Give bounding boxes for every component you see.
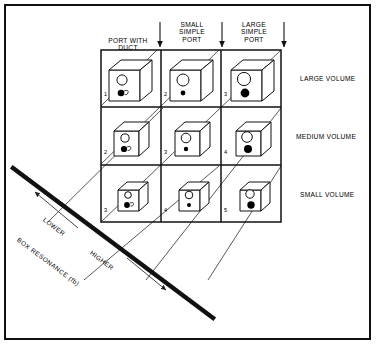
cell-number-r2c3: 4 [224, 149, 227, 155]
diagram-stage: PORT WITH DUCT SMALL SIMPLE PORT LARGE S… [0, 0, 377, 346]
column-header-large-simple-port: LARGE SIMPLE PORT [229, 13, 279, 43]
cell-number-r2c2: 3 [164, 149, 167, 155]
cube-r1c3 [231, 60, 274, 101]
row-label-medium-volume: MEDIUM VOLUME [296, 133, 356, 140]
cube-r1c1 [109, 60, 152, 101]
cube-r2c2 [175, 122, 210, 156]
column-header-label-3: LARGE SIMPLE PORT [241, 21, 267, 43]
cube-r1c2 [170, 60, 213, 101]
row-label-large-volume: LARGE VOLUME [300, 75, 355, 82]
cell-number-text: 2 [104, 149, 107, 155]
cell-number-r1c1: 1 [104, 91, 107, 97]
cell-number-text: 3 [224, 91, 227, 97]
row-label-text-2: MEDIUM VOLUME [296, 133, 356, 140]
cell-number-r1c2: 2 [164, 91, 167, 97]
cube-r3c3 [240, 182, 270, 211]
cube-r2c3 [236, 122, 271, 156]
cell-number-r3c3: 5 [224, 207, 227, 213]
row-label-text-1: LARGE VOLUME [300, 75, 355, 82]
column-header-label-2: SMALL SIMPLE PORT [179, 21, 205, 43]
cell-number-text: 3 [104, 207, 107, 213]
cell-number-text: 4 [224, 149, 227, 155]
diagram-canvas [0, 0, 377, 346]
cell-number-text: 5 [224, 207, 227, 213]
cell-number-text: 3 [164, 149, 167, 155]
cell-number-r3c1: 3 [104, 207, 107, 213]
cell-number-text: 1 [104, 91, 107, 97]
column-header-label-1: PORT WITH DUCT [108, 37, 147, 52]
cube-r3c2 [179, 182, 209, 211]
cell-number-text: 2 [164, 91, 167, 97]
row-label-text-3: SMALL VOLUME [300, 191, 354, 198]
cube-r3c1 [118, 182, 148, 211]
cell-number-r2c1: 2 [104, 149, 107, 155]
cell-number-r3c2: 4 [164, 207, 167, 213]
cell-number-r1c3: 3 [224, 91, 227, 97]
column-header-small-simple-port: SMALL SIMPLE PORT [167, 13, 217, 43]
cell-number-text: 4 [164, 207, 167, 213]
column-header-port-with-duct: PORT WITH DUCT [97, 29, 159, 52]
arrow-down-right-icon [127, 258, 166, 290]
row-label-small-volume: SMALL VOLUME [300, 191, 354, 198]
cube-r2c1 [114, 122, 149, 156]
